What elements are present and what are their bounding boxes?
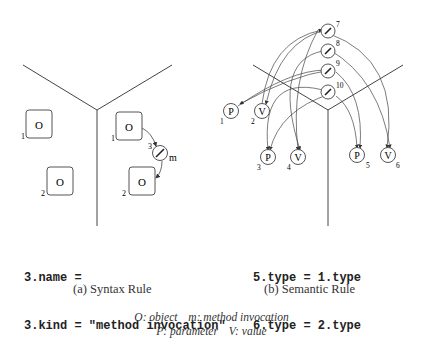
svg-text:V: V [258, 106, 266, 117]
legend-line-2: P: parameter V: value [0, 324, 423, 338]
svg-text:1: 1 [21, 132, 25, 141]
object-node-a-left-2: O 2 [41, 167, 73, 198]
semantic-edges [238, 30, 390, 150]
caption-b: (b) Semantic Rule [264, 282, 355, 297]
svg-text:1: 1 [220, 117, 224, 126]
method-node-10: 10 [321, 81, 344, 99]
method-node-8: 8 [321, 39, 340, 58]
legend-object: O: object [134, 311, 177, 323]
legend-method-invocation: m: method invocation [188, 311, 288, 323]
svg-text:V: V [384, 150, 392, 161]
svg-text:P: P [228, 106, 234, 117]
svg-text:P: P [265, 152, 271, 163]
svg-text:P: P [354, 150, 360, 161]
svg-text:7: 7 [336, 20, 340, 29]
object-node-a-right-2: O 2 [122, 167, 155, 198]
svg-text:2: 2 [251, 117, 255, 126]
value-node-6: V 6 [381, 148, 401, 171]
svg-text:2: 2 [122, 189, 126, 198]
value-node-4: V 4 [287, 150, 306, 173]
svg-text:4: 4 [287, 163, 291, 172]
method-invocation-node-3: 3 m [148, 142, 177, 163]
svg-text:3: 3 [257, 163, 261, 172]
svg-text:O: O [35, 119, 43, 131]
legend-line-1: O: object m: method invocation [0, 310, 423, 324]
method-node-7: 7 [321, 20, 340, 38]
parameter-node-5: P 5 [350, 148, 371, 171]
svg-text:V: V [294, 152, 302, 163]
svg-text:O: O [56, 176, 64, 188]
svg-text:O: O [138, 176, 146, 188]
svg-text:1: 1 [111, 134, 115, 143]
parameter-node-1: P 1 [220, 104, 239, 127]
parameter-node-3: P 3 [257, 150, 276, 173]
object-node-a-left-1: O 1 [21, 110, 52, 141]
svg-text:5: 5 [366, 161, 370, 170]
svg-text:9: 9 [336, 59, 340, 68]
svg-text:2: 2 [41, 189, 45, 198]
caption-a: (a) Syntax Rule [73, 282, 151, 297]
legend-value: V: value [229, 325, 267, 337]
object-node-a-right-1: O 1 [111, 112, 142, 143]
legend-parameter: P: parameter [156, 325, 218, 337]
svg-text:m: m [169, 152, 177, 163]
svg-text:O: O [125, 121, 133, 133]
value-node-2: V 2 [251, 104, 270, 127]
method-node-9: 9 [321, 59, 340, 78]
svg-text:8: 8 [336, 39, 340, 48]
svg-text:6: 6 [396, 161, 400, 170]
svg-text:10: 10 [336, 81, 344, 90]
svg-text:3: 3 [148, 142, 152, 151]
